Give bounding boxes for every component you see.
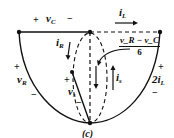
- iL-arrowhead-icon: [133, 21, 138, 26]
- vs-label: vs: [68, 86, 76, 99]
- vC-label: vC: [46, 13, 56, 26]
- iR-arrow-icon: [68, 42, 70, 56]
- figure-caption: (c): [82, 128, 93, 138]
- down-arrowhead-icon: [94, 84, 99, 89]
- vs-minus-sign: −: [76, 98, 82, 108]
- vs-plus-sign: +: [64, 75, 70, 85]
- vC-minus-sign: −: [67, 14, 73, 24]
- vR-plus-sign: +: [14, 62, 20, 72]
- iR-label: iR: [56, 37, 64, 50]
- is-label: is: [116, 72, 122, 85]
- circuit-diagram: [0, 0, 174, 138]
- is-arrowhead-icon: [111, 65, 116, 70]
- vR-label: vR: [17, 74, 27, 87]
- dep-minus-sign: −: [152, 88, 158, 98]
- node-right: [158, 30, 162, 34]
- iL-label: iL: [119, 7, 126, 20]
- node-left: [17, 30, 21, 34]
- fraction-denominator: 6: [119, 47, 160, 57]
- vR-minus-sign: −: [31, 90, 37, 100]
- iR-arrowhead-icon: [66, 55, 71, 60]
- node-top-center: [88, 30, 92, 34]
- fraction-label: v_R − v_C 6: [119, 36, 160, 57]
- node-bottom: [88, 121, 92, 125]
- dep-plus-sign: +: [158, 62, 164, 72]
- vC-plus-sign: +: [33, 15, 39, 25]
- dependent-source-label: 2iL: [152, 74, 165, 87]
- node-source-top: [70, 70, 74, 74]
- fraction-numerator: v_R − v_C: [119, 36, 160, 47]
